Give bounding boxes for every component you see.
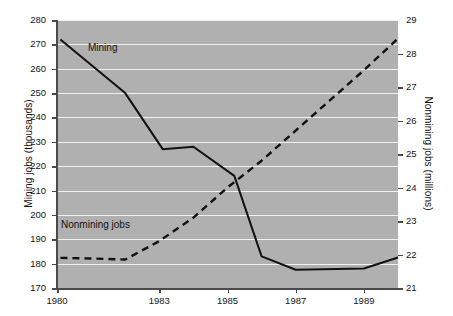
chart-root: 170180190200210220230240250260270280 212… bbox=[0, 0, 453, 316]
y-axis-left-tickmark bbox=[52, 69, 56, 71]
y-axis-right-tickmark bbox=[398, 288, 403, 290]
x-axis-tick-label: 1980 bbox=[37, 296, 77, 306]
y-axis-left-tick-label: 190 bbox=[0, 234, 46, 244]
y-axis-left-tick-label: 270 bbox=[0, 39, 46, 49]
y-axis-left-tickmark bbox=[52, 264, 56, 266]
y-axis-left-tickmark bbox=[52, 239, 56, 241]
x-axis-tick-label: 1989 bbox=[344, 296, 384, 306]
y-axis-left-tick-label: 280 bbox=[0, 15, 46, 25]
x-axis-tickmark bbox=[57, 289, 59, 293]
y-axis-right-tick-label: 28 bbox=[406, 49, 446, 59]
x-axis-tickmark bbox=[228, 289, 230, 293]
y-axis-right-tick-label: 21 bbox=[406, 283, 446, 293]
y-axis-line bbox=[56, 20, 58, 289]
y-axis-left-tickmark bbox=[52, 166, 56, 168]
y-axis-left-tickmark bbox=[52, 20, 56, 22]
y-axis-left-tickmark bbox=[52, 191, 56, 193]
y-axis-left-tick-label: 260 bbox=[0, 64, 46, 74]
x-axis-tick-label: 1987 bbox=[276, 296, 316, 306]
y-axis-left-tickmark bbox=[52, 117, 56, 119]
y-axis-left-tick-label: 180 bbox=[0, 259, 46, 269]
x-axis-tick-label: 1985 bbox=[208, 296, 248, 306]
y-axis-right-tickmark bbox=[398, 255, 403, 257]
series-line-mining bbox=[60, 39, 398, 269]
y-axis-left-tickmark bbox=[52, 142, 56, 144]
y-axis-right-tickmark bbox=[398, 154, 403, 156]
y-axis-left-tickmark bbox=[52, 288, 56, 290]
x-axis-tickmark bbox=[364, 289, 366, 293]
y-axis-right-title: Nonmining jobs (millions) bbox=[423, 74, 434, 234]
series-label-mining: Mining bbox=[88, 42, 117, 53]
y-axis-left-title: Mining jobs (thousands) bbox=[23, 74, 34, 234]
x-axis-tickmark bbox=[296, 289, 298, 293]
series-label-nonmining: Nonmining jobs bbox=[61, 219, 130, 230]
series-lines bbox=[57, 20, 398, 288]
y-axis-right-tickmark bbox=[398, 121, 403, 123]
y-axis-right-tick-label: 22 bbox=[406, 250, 446, 260]
y-axis-left-tickmark bbox=[52, 215, 56, 217]
x-axis-tickmark bbox=[159, 289, 161, 293]
y-axis-right-tickmark bbox=[398, 221, 403, 223]
x-axis-tick-label: 1983 bbox=[139, 296, 179, 306]
y-axis-left-tickmark bbox=[52, 44, 56, 46]
y-axis-right-tickmark bbox=[398, 188, 403, 190]
y-axis-right-tickmark bbox=[398, 54, 403, 56]
plot-area bbox=[57, 20, 398, 288]
y-axis-left-tick-label: 170 bbox=[0, 283, 46, 293]
y-axis-right-tickmark bbox=[398, 87, 403, 89]
y-axis-left-tickmark bbox=[52, 93, 56, 95]
y-axis-right-tick-label: 29 bbox=[406, 15, 446, 25]
